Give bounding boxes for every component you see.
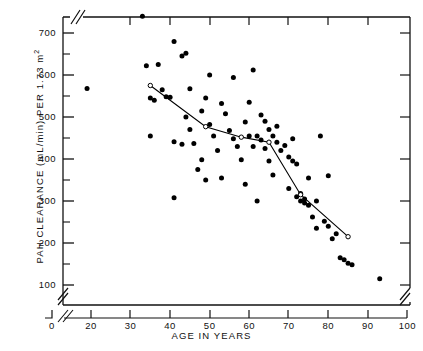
data-point	[255, 133, 260, 138]
data-point	[286, 186, 291, 191]
data-point	[195, 167, 200, 172]
data-point	[247, 133, 252, 138]
x-tick-label: 80	[313, 320, 343, 331]
data-point	[274, 124, 279, 129]
x-tick-label: 40	[155, 320, 185, 331]
data-point	[231, 75, 236, 80]
data-point	[183, 115, 188, 120]
trend-line-path	[150, 86, 348, 237]
trend-mean-marker	[298, 193, 302, 197]
x-axis-label: AGE IN YEARS	[0, 330, 423, 341]
data-point	[266, 159, 271, 164]
data-point	[314, 199, 319, 204]
data-point	[179, 54, 184, 59]
data-point	[140, 14, 145, 19]
data-point	[203, 178, 208, 183]
data-point	[231, 136, 236, 141]
data-point	[239, 157, 244, 162]
x-tick-label: 50	[195, 320, 225, 331]
data-point	[207, 73, 212, 78]
data-point	[203, 96, 208, 101]
data-point	[172, 139, 177, 144]
y-tick-label: 300	[22, 195, 56, 206]
data-point	[199, 109, 204, 114]
x-tick-label: 0	[37, 320, 67, 331]
data-point	[247, 100, 252, 105]
y-tick-label: 500	[22, 111, 56, 122]
y-tick-label: 700	[22, 27, 56, 38]
axis-break-marks	[58, 10, 414, 305]
y-tick-label: 600	[22, 69, 56, 80]
data-point	[187, 86, 192, 91]
plot-frame	[63, 17, 410, 305]
data-point	[148, 133, 153, 138]
y-tick-label: 100	[22, 279, 56, 290]
top-axis-ticks	[130, 17, 368, 25]
y-tick-label: 400	[22, 153, 56, 164]
x-tick-label: 20	[76, 320, 106, 331]
x-tick-label: 100	[392, 320, 422, 331]
data-point	[306, 175, 311, 180]
trend-mean-marker	[203, 124, 207, 128]
data-point	[251, 67, 256, 72]
trend-mean-marker	[239, 135, 243, 139]
y-tick-label: 200	[22, 237, 56, 248]
data-point	[227, 128, 232, 133]
data-point	[144, 63, 149, 68]
y-axis-major-ticks	[63, 33, 74, 285]
data-point	[342, 257, 347, 262]
data-point	[251, 144, 256, 149]
data-point	[243, 182, 248, 187]
trend-mean-marker	[267, 140, 271, 144]
data-point	[350, 262, 355, 267]
data-point	[377, 276, 382, 281]
data-point	[278, 148, 283, 153]
scatter-data-points	[85, 14, 383, 282]
data-point	[191, 141, 196, 146]
data-point	[172, 39, 177, 44]
right-axis-ticks	[400, 33, 410, 285]
pah-clearance-scatter-chart	[0, 0, 423, 351]
data-point	[219, 175, 224, 180]
data-point	[183, 51, 188, 56]
data-point	[156, 62, 161, 67]
data-point	[270, 172, 275, 177]
data-point	[318, 133, 323, 138]
data-point	[179, 142, 184, 147]
data-point	[274, 140, 279, 145]
data-point	[255, 199, 260, 204]
data-point	[199, 157, 204, 162]
data-point	[290, 159, 295, 164]
data-point	[215, 148, 220, 153]
data-point	[243, 120, 248, 125]
data-point	[263, 119, 268, 124]
data-point	[286, 154, 291, 159]
data-point	[85, 86, 90, 91]
data-point	[187, 127, 192, 132]
data-point	[270, 133, 275, 138]
data-point	[322, 219, 327, 224]
data-point	[266, 127, 271, 132]
data-point	[330, 236, 335, 241]
trend-mean-marker	[148, 83, 152, 87]
data-point	[235, 144, 240, 149]
data-point	[219, 101, 224, 106]
data-point	[310, 214, 315, 219]
data-point	[290, 136, 295, 141]
trend-mean-marker	[346, 235, 350, 239]
data-point	[172, 195, 177, 200]
x-tick-label: 70	[274, 320, 304, 331]
data-point	[282, 143, 287, 148]
data-point	[294, 162, 299, 167]
data-point	[223, 111, 228, 116]
data-point	[326, 224, 331, 229]
data-point	[259, 112, 264, 117]
data-point	[152, 98, 157, 103]
x-tick-label: 60	[234, 320, 264, 331]
data-point	[334, 231, 339, 236]
data-point	[326, 173, 331, 178]
decade-mean-trend-line	[148, 83, 350, 239]
data-point	[160, 87, 165, 92]
data-point	[263, 146, 268, 151]
x-tick-label: 90	[353, 320, 383, 331]
